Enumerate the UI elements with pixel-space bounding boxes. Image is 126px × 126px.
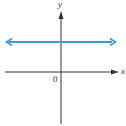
y-axis [59, 11, 64, 124]
x-axis-label: x [121, 67, 125, 76]
y-axis-arrow-icon [59, 11, 64, 19]
origin-label: 0 [53, 75, 58, 84]
x-axis-arrow-icon [111, 70, 119, 75]
x-axis [5, 70, 119, 75]
coordinate-plane [0, 0, 126, 126]
y-axis-label: y [58, 0, 62, 9]
